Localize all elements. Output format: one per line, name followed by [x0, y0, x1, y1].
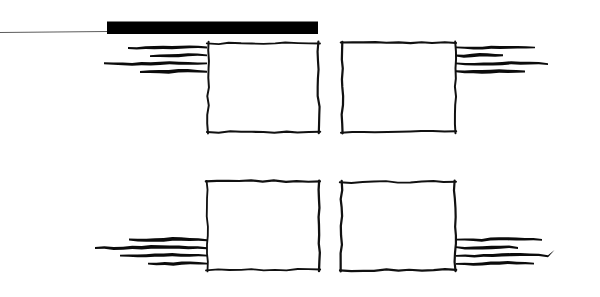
annotation-layer — [95, 46, 555, 266]
bottom-left-panel-edge-0 — [206, 180, 320, 181]
bottom-left-panel-edge-2 — [206, 269, 320, 270]
bottom-left-panel-edge-3 — [207, 181, 208, 272]
bottom-left-annotation-lines — [95, 237, 207, 266]
top-left-panel-edge-1 — [318, 42, 320, 134]
top-left-panel-edge-3 — [207, 42, 209, 134]
top-left-annotation-lines-line-1 — [150, 53, 207, 57]
top-right-panel-edge-3 — [342, 42, 343, 134]
bottom-right-annotation-lines-line-1 — [456, 246, 518, 250]
top-left-annotation-lines-line-3 — [140, 69, 207, 74]
title-bar-layer — [107, 22, 318, 35]
sketch-canvas — [0, 0, 600, 297]
bottom-right-annotation-lines-line-3 — [456, 261, 534, 266]
bottom-left-annotation-lines-line-0 — [129, 237, 207, 242]
bottom-right-panel-edge-2 — [340, 269, 456, 271]
top-left-panel-edge-0 — [207, 42, 320, 44]
top-left-annotation-lines-line-0 — [128, 46, 207, 50]
bottom-left-panel — [206, 180, 320, 271]
top-right-panel-edge-2 — [341, 131, 456, 133]
top-left-annotation-lines-line-2 — [104, 61, 207, 66]
top-right-panel-edge-1 — [455, 42, 456, 134]
bottom-right-panel-edge-0 — [340, 181, 456, 183]
bottom-right-panel — [340, 181, 456, 272]
top-right-panel-edge-0 — [341, 42, 456, 43]
top-right-panel — [341, 42, 456, 134]
bottom-right-annotation-lines — [456, 237, 555, 266]
top-left-panel-edge-2 — [207, 131, 320, 133]
bottom-right-annotation-lines-line-0 — [456, 237, 542, 242]
leader-line-layer — [0, 32, 107, 33]
top-left-panel — [207, 42, 320, 134]
top-right-annotation-lines-line-3 — [456, 69, 525, 73]
bottom-left-annotation-lines-line-2 — [120, 253, 207, 257]
top-right-annotation-lines-line-2 — [456, 61, 548, 65]
bottom-right-panel-edge-1 — [454, 181, 456, 272]
bottom-left-annotation-lines-line-3 — [148, 261, 207, 265]
top-right-annotation-lines-line-0 — [456, 46, 535, 50]
panel-layer — [206, 42, 456, 272]
bottom-left-panel-edge-1 — [319, 181, 320, 272]
top-right-annotation-lines-line-1 — [456, 53, 503, 58]
title-bar — [107, 22, 318, 35]
bottom-right-annotation-lines-line-2 — [456, 250, 555, 258]
top-left-annotation-lines — [104, 46, 207, 74]
bottom-right-panel-edge-3 — [341, 181, 343, 272]
bottom-left-annotation-lines-line-1 — [95, 245, 207, 250]
sketch-figure — [0, 0, 600, 297]
top-right-annotation-lines — [456, 46, 548, 74]
leader-line — [0, 32, 107, 33]
